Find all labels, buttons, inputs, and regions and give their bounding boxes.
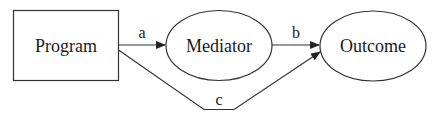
node-mediator: Mediator [166, 11, 272, 81]
outcome-label: Outcome [340, 36, 406, 56]
edge-label-b: b [292, 24, 300, 41]
edge-label-c: c [215, 91, 222, 108]
edge-label-a: a [138, 24, 145, 41]
edge-b: b [272, 24, 319, 45]
edge-a: a [119, 24, 166, 45]
mediator-label: Mediator [186, 36, 252, 56]
node-outcome: Outcome [320, 11, 426, 81]
mediation-diagram: Program Mediator Outcome a b c [0, 0, 436, 114]
node-program: Program [14, 11, 119, 81]
program-label: Program [35, 36, 97, 56]
